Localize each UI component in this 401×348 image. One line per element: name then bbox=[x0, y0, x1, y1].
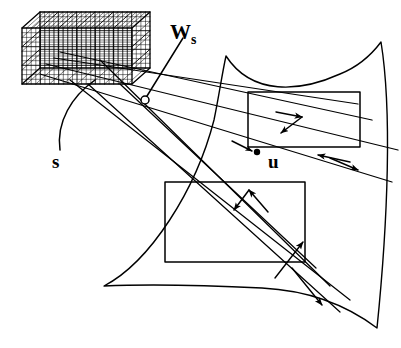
label-u: u bbox=[268, 152, 279, 171]
figure-canvas: Ws s u bbox=[0, 0, 401, 348]
label-w-s: Ws bbox=[170, 22, 196, 47]
label-s: s bbox=[52, 152, 59, 171]
upper-rect-vector-pair bbox=[276, 112, 302, 133]
lower-window-rectangle bbox=[165, 182, 305, 262]
u-pointer-arrow bbox=[232, 141, 252, 151]
ws-sample-point-marker bbox=[141, 96, 149, 104]
label-w-s-subscript: s bbox=[191, 32, 196, 47]
label-w-s-base: W bbox=[170, 20, 191, 44]
u-sample-point-marker bbox=[254, 149, 260, 155]
ray-arrowheads bbox=[275, 155, 358, 305]
diagram-svg bbox=[0, 0, 401, 348]
curved-surface-patch bbox=[104, 42, 388, 328]
s-leader-line bbox=[59, 80, 95, 150]
upper-window-rectangle bbox=[248, 92, 360, 147]
